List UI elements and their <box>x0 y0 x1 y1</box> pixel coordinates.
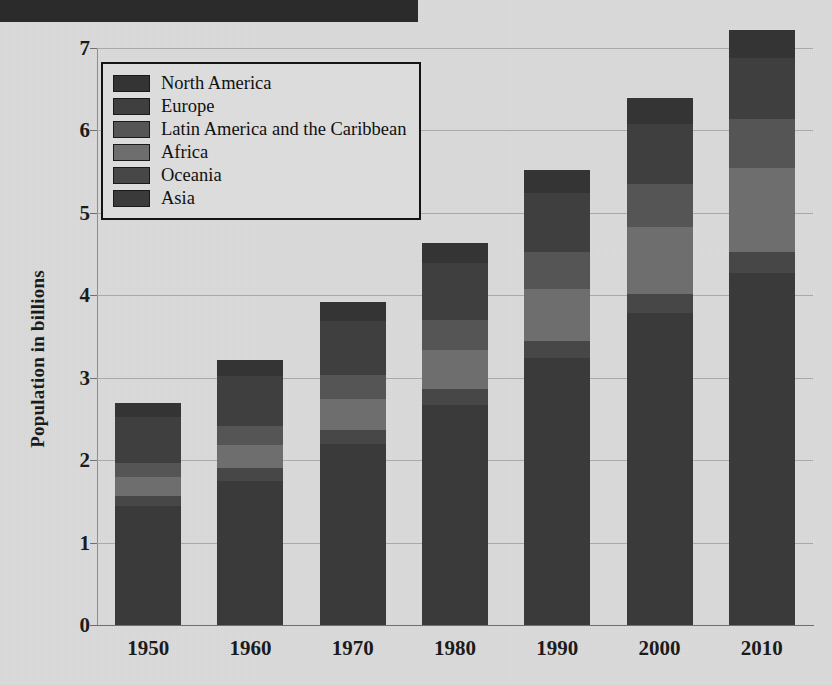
top-black-banner <box>0 0 418 22</box>
legend-swatch-icon <box>113 121 150 138</box>
bar-segment-1950-europe[interactable] <box>115 417 181 462</box>
bar-segment-1960-latin-america-and-the-caribbean[interactable] <box>217 426 283 444</box>
bar-segment-1980-north-america[interactable] <box>422 243 488 264</box>
legend-label: Europe <box>161 97 214 116</box>
legend-swatch-icon <box>113 190 150 207</box>
legend-item-north-america[interactable]: North America <box>113 72 409 95</box>
legend-swatch-icon <box>113 167 150 184</box>
x-tick-label-1980: 1980 <box>412 636 498 661</box>
bar-segment-1970-europe[interactable] <box>320 321 386 375</box>
bar-segment-1950-north-america[interactable] <box>115 403 181 417</box>
legend-item-latin-america-and-the-caribbean[interactable]: Latin America and the Caribbean <box>113 118 409 141</box>
bar-segment-2000-asia[interactable] <box>627 313 693 625</box>
legend-item-africa[interactable]: Africa <box>113 141 409 164</box>
bar-segment-2000-latin-america-and-the-caribbean[interactable] <box>627 184 693 227</box>
bar-segment-1970-oceania[interactable] <box>320 430 386 444</box>
bar-2000[interactable] <box>627 98 693 625</box>
y-tick-label-5: 5 <box>50 200 90 225</box>
bar-segment-1990-latin-america-and-the-caribbean[interactable] <box>524 252 590 288</box>
bar-1970[interactable] <box>320 302 386 625</box>
bar-segment-1970-africa[interactable] <box>320 399 386 429</box>
bar-segment-1980-latin-america-and-the-caribbean[interactable] <box>422 320 488 350</box>
x-tick-label-1960: 1960 <box>207 636 293 661</box>
bar-segment-1990-europe[interactable] <box>524 193 590 252</box>
y-tick-label-0: 0 <box>50 613 90 638</box>
legend-label: Africa <box>161 143 208 162</box>
legend-swatch-icon <box>113 144 150 161</box>
chart-legend: North AmericaEuropeLatin America and the… <box>101 62 421 220</box>
legend-swatch-icon <box>113 98 150 115</box>
bar-segment-1980-asia[interactable] <box>422 405 488 625</box>
x-tick-label-2000: 2000 <box>617 636 703 661</box>
bar-segment-1980-europe[interactable] <box>422 263 488 320</box>
y-tick-label-4: 4 <box>50 283 90 308</box>
legend-label: Oceania <box>161 166 222 185</box>
x-tick-label-1970: 1970 <box>310 636 396 661</box>
bar-segment-2010-oceania[interactable] <box>729 252 795 273</box>
bar-segment-1960-africa[interactable] <box>217 445 283 469</box>
legend-label: Latin America and the Caribbean <box>161 120 407 139</box>
bar-segment-2010-north-america[interactable] <box>729 30 795 58</box>
legend-label: Asia <box>161 189 195 208</box>
bar-segment-1990-oceania[interactable] <box>524 341 590 358</box>
bar-2010[interactable] <box>729 30 795 625</box>
y-tick-label-2: 2 <box>50 448 90 473</box>
bar-segment-1950-latin-america-and-the-caribbean[interactable] <box>115 463 181 477</box>
gridline-7 <box>97 48 813 49</box>
bar-segment-2000-europe[interactable] <box>627 124 693 184</box>
bar-segment-1960-oceania[interactable] <box>217 468 283 480</box>
bar-1990[interactable] <box>524 170 590 625</box>
bar-segment-2000-africa[interactable] <box>627 227 693 295</box>
y-axis-ticks: 01234567 <box>38 48 90 626</box>
y-tick-label-7: 7 <box>50 36 90 61</box>
bar-segment-1960-north-america[interactable] <box>217 360 283 376</box>
legend-item-europe[interactable]: Europe <box>113 95 409 118</box>
legend-item-oceania[interactable]: Oceania <box>113 164 409 187</box>
bar-segment-1980-africa[interactable] <box>422 350 488 390</box>
legend-swatch-icon <box>113 75 150 92</box>
bar-segment-1970-latin-america-and-the-caribbean[interactable] <box>320 375 386 399</box>
y-tick-label-1: 1 <box>50 530 90 555</box>
bar-segment-2000-oceania[interactable] <box>627 294 693 313</box>
bar-segment-1990-north-america[interactable] <box>524 170 590 193</box>
bar-segment-1990-asia[interactable] <box>524 358 590 625</box>
bar-segment-2010-latin-america-and-the-caribbean[interactable] <box>729 119 795 168</box>
bar-segment-1950-oceania[interactable] <box>115 496 181 507</box>
bar-segment-1960-asia[interactable] <box>217 481 283 625</box>
bar-segment-1950-asia[interactable] <box>115 506 181 625</box>
x-tick-label-1990: 1990 <box>514 636 600 661</box>
y-tick-label-3: 3 <box>50 365 90 390</box>
y-tick-label-6: 6 <box>50 118 90 143</box>
bar-segment-1970-asia[interactable] <box>320 444 386 625</box>
bar-1950[interactable] <box>115 403 181 625</box>
x-tick-label-1950: 1950 <box>105 636 191 661</box>
bar-segment-1990-africa[interactable] <box>524 289 590 341</box>
bar-segment-2010-africa[interactable] <box>729 168 795 253</box>
gridline-0 <box>97 625 813 626</box>
bar-1960[interactable] <box>217 360 283 625</box>
bar-segment-2000-north-america[interactable] <box>627 98 693 124</box>
bar-segment-1970-north-america[interactable] <box>320 302 386 321</box>
bar-segment-2010-europe[interactable] <box>729 58 795 119</box>
legend-label: North America <box>161 74 271 93</box>
x-tick-label-2010: 2010 <box>719 636 805 661</box>
bar-segment-1950-africa[interactable] <box>115 477 181 496</box>
legend-item-asia[interactable]: Asia <box>113 187 409 210</box>
bar-1980[interactable] <box>422 243 488 625</box>
bar-segment-1980-oceania[interactable] <box>422 389 488 405</box>
bar-segment-1960-europe[interactable] <box>217 376 283 426</box>
bar-segment-2010-asia[interactable] <box>729 273 795 625</box>
